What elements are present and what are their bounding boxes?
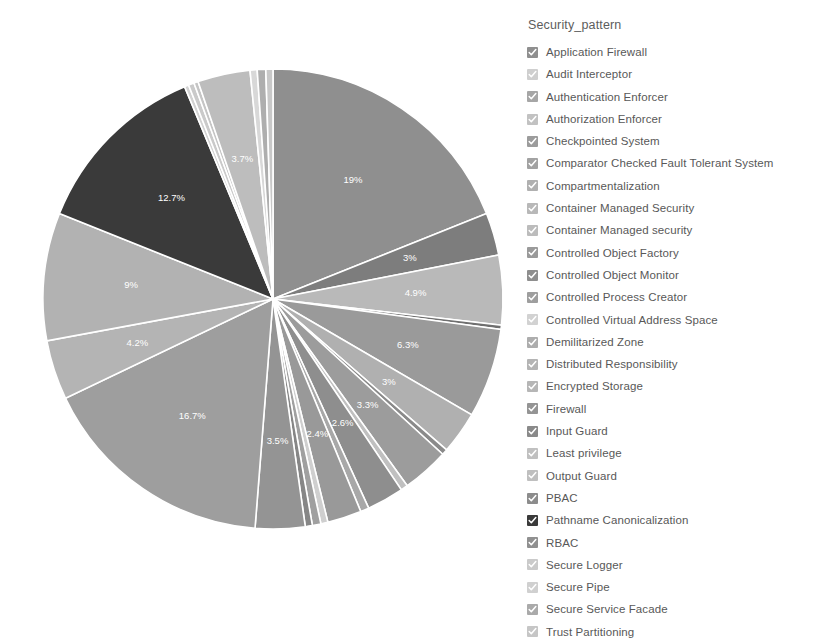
legend-checkbox-icon[interactable] — [527, 604, 538, 615]
pie-chart-page: 19%3%4.9%6.3%3%3.3%2.6%2.4%3.5%16.7%4.2%… — [0, 0, 816, 639]
pie-slice-label: 2.6% — [332, 417, 354, 428]
legend-item-label: Encrypted Storage — [546, 375, 643, 397]
legend-item-label: Compartmentalization — [546, 175, 660, 197]
legend-item[interactable]: Secure Pipe — [527, 576, 816, 598]
legend-item-label: Output Guard — [546, 465, 617, 487]
legend-item[interactable]: Output Guard — [527, 465, 816, 487]
legend-item-label: Demilitarized Zone — [546, 331, 644, 353]
legend-item-label: RBAC — [546, 532, 578, 554]
legend-item-label: Distributed Responsibility — [546, 353, 678, 375]
pie-slice-label: 6.3% — [397, 339, 419, 350]
legend-item[interactable]: Demilitarized Zone — [527, 331, 816, 353]
legend-item[interactable]: Controlled Process Creator — [527, 286, 816, 308]
legend-item[interactable]: Encrypted Storage — [527, 375, 816, 397]
legend-item-label: Comparator Checked Fault Tolerant System — [546, 152, 774, 174]
legend-item-label: Container Managed security — [546, 219, 692, 241]
pie-slice-label: 2.4% — [307, 428, 329, 439]
legend-checkbox-icon[interactable] — [527, 91, 538, 102]
legend-item-label: Secure Pipe — [546, 576, 610, 598]
legend-item[interactable]: Controlled Object Monitor — [527, 264, 816, 286]
legend-item[interactable]: Container Managed security — [527, 219, 816, 241]
legend-checkbox-icon[interactable] — [527, 136, 538, 147]
legend-item-label: Controlled Object Monitor — [546, 264, 679, 286]
legend-item[interactable]: Authentication Enforcer — [527, 86, 816, 108]
legend-checkbox-icon[interactable] — [527, 203, 538, 214]
legend-item[interactable]: Authorization Enforcer — [527, 108, 816, 130]
legend-item[interactable]: Firewall — [527, 398, 816, 420]
legend-checkbox-icon[interactable] — [527, 470, 538, 481]
pie-slice-label: 3.3% — [357, 399, 379, 410]
legend-item[interactable]: Distributed Responsibility — [527, 353, 816, 375]
legend-checkbox-icon[interactable] — [527, 314, 538, 325]
legend-checkbox-icon[interactable] — [527, 381, 538, 392]
legend-item[interactable]: Controlled Virtual Address Space — [527, 309, 816, 331]
legend-checkbox-icon[interactable] — [527, 69, 538, 80]
legend-item[interactable]: Compartmentalization — [527, 175, 816, 197]
legend-item-label: Secure Service Facade — [546, 598, 668, 620]
pie-chart-area: 19%3%4.9%6.3%3%3.3%2.6%2.4%3.5%16.7%4.2%… — [0, 0, 516, 639]
legend-item-label: Controlled Virtual Address Space — [546, 309, 718, 331]
pie-slice-label: 16.7% — [179, 410, 206, 421]
legend-checkbox-icon[interactable] — [527, 180, 538, 191]
legend-checkbox-icon[interactable] — [527, 582, 538, 593]
legend-item-label: Pathname Canonicalization — [546, 509, 689, 531]
legend-checkbox-icon[interactable] — [527, 225, 538, 236]
legend-checkbox-icon[interactable] — [527, 47, 538, 58]
pie-slice-label: 3% — [382, 376, 396, 387]
legend-checkbox-icon[interactable] — [527, 337, 538, 348]
legend-item-label: Authorization Enforcer — [546, 108, 662, 130]
pie-slice-label: 12.7% — [158, 192, 185, 203]
pie-slice-label: 9% — [124, 279, 138, 290]
legend-item-label: Application Firewall — [546, 41, 647, 63]
legend-item[interactable]: Secure Service Facade — [527, 598, 816, 620]
legend-item[interactable]: Audit Interceptor — [527, 63, 816, 85]
pie-slice-label: 3.7% — [232, 153, 254, 164]
pie-slices-group — [43, 69, 503, 529]
legend-item-label: Authentication Enforcer — [546, 86, 668, 108]
legend-checkbox-icon[interactable] — [527, 403, 538, 414]
pie-slice-label: 3.5% — [267, 435, 289, 446]
legend-checkbox-icon[interactable] — [527, 247, 538, 258]
legend-item[interactable]: Trust Partitioning — [527, 621, 816, 639]
legend-checkbox-icon[interactable] — [527, 158, 538, 169]
pie-chart-svg: 19%3%4.9%6.3%3%3.3%2.6%2.4%3.5%16.7%4.2%… — [0, 0, 516, 639]
legend-item[interactable]: Input Guard — [527, 420, 816, 442]
legend-item[interactable]: Checkpointed System — [527, 130, 816, 152]
legend-checkbox-icon[interactable] — [527, 493, 538, 504]
legend-title: Security_pattern — [528, 18, 816, 32]
legend-item-list: Application FirewallAudit InterceptorAut… — [527, 41, 816, 639]
legend-item[interactable]: Controlled Object Factory — [527, 242, 816, 264]
legend-item[interactable]: Container Managed Security — [527, 197, 816, 219]
legend-checkbox-icon[interactable] — [527, 292, 538, 303]
legend-item[interactable]: RBAC — [527, 532, 816, 554]
legend-item[interactable]: Application Firewall — [527, 41, 816, 63]
legend-item-label: Secure Logger — [546, 554, 623, 576]
legend-checkbox-icon[interactable] — [527, 114, 538, 125]
legend-item-label: Checkpointed System — [546, 130, 660, 152]
legend-item-label: Controlled Process Creator — [546, 286, 687, 308]
legend-checkbox-icon[interactable] — [527, 359, 538, 370]
pie-slice-label: 19% — [343, 174, 363, 185]
legend-item-label: Least privilege — [546, 442, 622, 464]
legend-item-label: Firewall — [546, 398, 586, 420]
legend-checkbox-icon[interactable] — [527, 515, 538, 526]
legend-item[interactable]: Comparator Checked Fault Tolerant System — [527, 152, 816, 174]
legend-item[interactable]: PBAC — [527, 487, 816, 509]
legend-checkbox-icon[interactable] — [527, 537, 538, 548]
legend-checkbox-icon[interactable] — [527, 426, 538, 437]
legend-item-label: Audit Interceptor — [546, 63, 632, 85]
pie-slice-label: 4.2% — [127, 337, 149, 348]
legend-item-label: Input Guard — [546, 420, 608, 442]
legend-item[interactable]: Pathname Canonicalization — [527, 509, 816, 531]
legend-item-label: Container Managed Security — [546, 197, 694, 219]
legend-item[interactable]: Least privilege — [527, 442, 816, 464]
legend-item[interactable]: Secure Logger — [527, 554, 816, 576]
legend-item-label: Trust Partitioning — [546, 621, 634, 639]
legend-checkbox-icon[interactable] — [527, 559, 538, 570]
pie-slice-label: 4.9% — [405, 287, 427, 298]
legend-checkbox-icon[interactable] — [527, 270, 538, 281]
legend: Security_pattern Application FirewallAud… — [527, 18, 816, 639]
legend-item-label: PBAC — [546, 487, 578, 509]
legend-checkbox-icon[interactable] — [527, 448, 538, 459]
legend-checkbox-icon[interactable] — [527, 626, 538, 637]
